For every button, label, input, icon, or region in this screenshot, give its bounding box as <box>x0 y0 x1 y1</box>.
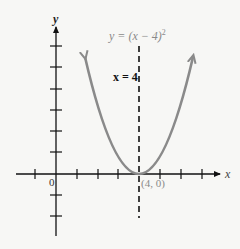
x-axis-label: x <box>225 168 230 180</box>
axis-of-symmetry-label: x = 4 <box>113 71 138 83</box>
origin-label: 0 <box>49 177 55 188</box>
vertex-label: (4, 0) <box>141 178 165 189</box>
y-axis-label: y <box>53 13 58 25</box>
function-label: y = (x − 4)2 <box>109 29 166 42</box>
